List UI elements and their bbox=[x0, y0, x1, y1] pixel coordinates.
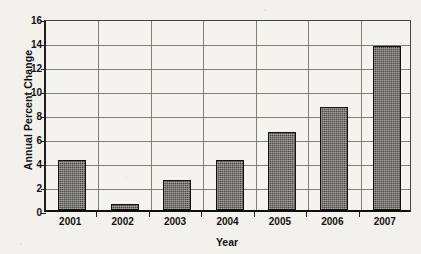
x-tick-label-2005: 2005 bbox=[254, 216, 306, 227]
bar-2004 bbox=[216, 160, 244, 210]
y-tick-label: 14 bbox=[6, 39, 42, 50]
y-tick-label: 6 bbox=[6, 135, 42, 146]
y-gridline bbox=[46, 45, 410, 46]
bar-2006 bbox=[320, 107, 348, 210]
x-gridline bbox=[151, 21, 152, 210]
x-gridline bbox=[98, 21, 99, 210]
y-tick-label: 16 bbox=[6, 15, 42, 26]
x-tick-label-2001: 2001 bbox=[44, 216, 96, 227]
x-gridline bbox=[203, 21, 204, 210]
x-gridline bbox=[256, 21, 257, 210]
bar-chart: Annual Percent Change 0246810121416 2001… bbox=[0, 0, 421, 254]
x-gridline bbox=[361, 21, 362, 210]
plot-area bbox=[44, 20, 411, 212]
x-axis-title: Year bbox=[42, 236, 412, 248]
bar-2002 bbox=[111, 204, 139, 210]
y-gridline bbox=[46, 117, 410, 118]
bar-2005 bbox=[268, 132, 296, 210]
x-tick-label-2002: 2002 bbox=[97, 216, 149, 227]
y-tick-label: 10 bbox=[6, 87, 42, 98]
y-gridline bbox=[46, 93, 410, 94]
y-tick-label: 8 bbox=[6, 111, 42, 122]
x-tick-label-2007: 2007 bbox=[359, 216, 411, 227]
y-gridline bbox=[46, 141, 410, 142]
bar-2007 bbox=[373, 46, 401, 210]
y-gridline bbox=[46, 69, 410, 70]
y-tick-label: 12 bbox=[6, 63, 42, 74]
x-tick-label-2004: 2004 bbox=[202, 216, 254, 227]
x-tick-label-2006: 2006 bbox=[306, 216, 358, 227]
y-tick-label: 2 bbox=[6, 183, 42, 194]
x-tick-label-2003: 2003 bbox=[149, 216, 201, 227]
bar-2003 bbox=[163, 180, 191, 210]
y-tick-label: 4 bbox=[6, 159, 42, 170]
y-tick-label: 0 bbox=[6, 207, 42, 218]
x-gridline bbox=[308, 21, 309, 210]
bar-2001 bbox=[58, 160, 86, 210]
